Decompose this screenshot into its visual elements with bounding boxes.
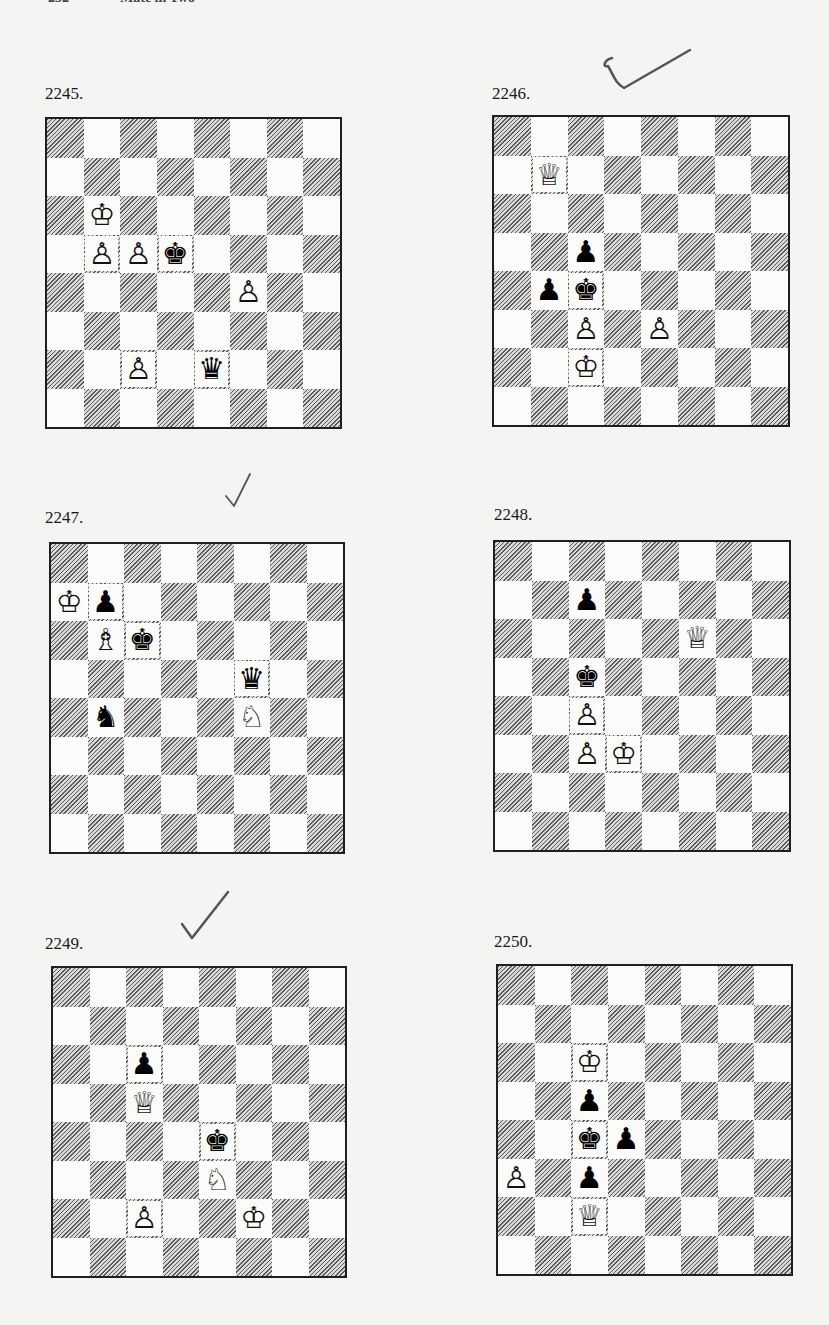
- square-d6[interactable]: [604, 194, 641, 233]
- square-g5[interactable]: [718, 1082, 755, 1121]
- square-a2[interactable]: [47, 350, 84, 389]
- square-a5[interactable]: [51, 660, 88, 699]
- square-e4[interactable]: [642, 696, 679, 735]
- square-e7[interactable]: [645, 1005, 682, 1044]
- square-d3[interactable]: [608, 1159, 645, 1198]
- square-c4[interactable]: [124, 698, 161, 737]
- square-b4[interactable]: [535, 1120, 572, 1159]
- square-g3[interactable]: [718, 1159, 755, 1198]
- black-king-icon[interactable]: ♚: [573, 1122, 606, 1157]
- square-d5[interactable]: [608, 1082, 645, 1121]
- black-king-icon[interactable]: ♚: [159, 236, 192, 271]
- square-g4[interactable]: [718, 1120, 755, 1159]
- square-h7[interactable]: [309, 1007, 346, 1046]
- square-f5[interactable]: [681, 1082, 718, 1121]
- square-a3[interactable]: [495, 735, 532, 774]
- square-c8[interactable]: [126, 968, 163, 1007]
- square-h1[interactable]: [752, 812, 789, 851]
- square-b4[interactable]: [84, 273, 121, 312]
- black-king-icon[interactable]: ♚: [201, 1124, 234, 1159]
- square-g2[interactable]: [267, 350, 304, 389]
- square-g2[interactable]: [715, 348, 752, 387]
- square-b8[interactable]: [532, 542, 569, 581]
- square-h5[interactable]: [751, 233, 788, 272]
- square-e7[interactable]: [642, 581, 679, 620]
- black-queen-icon[interactable]: ♛: [195, 352, 228, 387]
- square-h4[interactable]: [754, 1120, 791, 1159]
- square-a3[interactable]: ♙: [498, 1159, 535, 1198]
- square-a7[interactable]: ♔: [51, 583, 88, 622]
- square-d7[interactable]: [608, 1005, 645, 1044]
- square-a8[interactable]: [494, 117, 531, 156]
- square-b7[interactable]: [84, 158, 121, 197]
- square-e4[interactable]: ♚: [199, 1122, 236, 1161]
- square-h1[interactable]: [303, 389, 340, 428]
- square-d4[interactable]: [604, 271, 641, 310]
- square-f7[interactable]: [678, 156, 715, 195]
- square-g7[interactable]: [267, 158, 304, 197]
- square-f1[interactable]: [678, 387, 715, 426]
- square-f2[interactable]: [679, 773, 716, 812]
- square-f1[interactable]: [681, 1236, 718, 1275]
- square-g8[interactable]: [272, 968, 309, 1007]
- square-g5[interactable]: [272, 1084, 309, 1123]
- square-h4[interactable]: [751, 271, 788, 310]
- square-b3[interactable]: [90, 1161, 127, 1200]
- square-b7[interactable]: ♟: [88, 583, 125, 622]
- white-queen-icon[interactable]: ♕: [128, 1085, 161, 1120]
- square-b2[interactable]: [535, 1197, 572, 1236]
- white-pawn-icon[interactable]: ♙: [85, 236, 118, 271]
- square-h2[interactable]: [754, 1197, 791, 1236]
- square-g1[interactable]: [267, 389, 304, 428]
- square-c2[interactable]: [569, 773, 606, 812]
- square-f6[interactable]: [230, 196, 267, 235]
- square-a8[interactable]: [498, 966, 535, 1005]
- square-a6[interactable]: [494, 194, 531, 233]
- square-g5[interactable]: [267, 235, 304, 274]
- square-c3[interactable]: ♙: [568, 310, 605, 349]
- square-g8[interactable]: [716, 542, 753, 581]
- square-h3[interactable]: [751, 310, 788, 349]
- square-f5[interactable]: [678, 233, 715, 272]
- square-c1[interactable]: [571, 1236, 608, 1275]
- square-a7[interactable]: [47, 158, 84, 197]
- white-queen-icon[interactable]: ♕: [681, 621, 714, 656]
- square-c5[interactable]: [124, 660, 161, 699]
- square-e8[interactable]: [641, 117, 678, 156]
- square-f6[interactable]: [678, 194, 715, 233]
- square-g7[interactable]: [272, 1007, 309, 1046]
- square-d1[interactable]: [605, 812, 642, 851]
- square-d7[interactable]: [605, 581, 642, 620]
- square-e5[interactable]: [197, 660, 234, 699]
- square-b2[interactable]: [88, 775, 125, 814]
- square-h1[interactable]: [309, 1238, 346, 1277]
- square-g2[interactable]: [716, 773, 753, 812]
- square-g4[interactable]: [267, 273, 304, 312]
- square-b6[interactable]: [531, 194, 568, 233]
- square-b5[interactable]: ♙: [84, 235, 121, 274]
- black-pawn-icon[interactable]: ♟: [569, 234, 602, 269]
- square-a8[interactable]: [53, 968, 90, 1007]
- square-e1[interactable]: [642, 812, 679, 851]
- square-c8[interactable]: [569, 542, 606, 581]
- square-c7[interactable]: [571, 1005, 608, 1044]
- square-e8[interactable]: [194, 119, 231, 158]
- square-b3[interactable]: [531, 310, 568, 349]
- square-g8[interactable]: [715, 117, 752, 156]
- square-b8[interactable]: [84, 119, 121, 158]
- square-d4[interactable]: [161, 698, 198, 737]
- square-a5[interactable]: [498, 1082, 535, 1121]
- square-h5[interactable]: [307, 660, 344, 699]
- square-a4[interactable]: [47, 273, 84, 312]
- chess-board[interactable]: ♟♕♚♙♙♔: [493, 540, 791, 852]
- square-g5[interactable]: [270, 660, 307, 699]
- square-h8[interactable]: [303, 119, 340, 158]
- square-d1[interactable]: [604, 387, 641, 426]
- square-g6[interactable]: [716, 619, 753, 658]
- square-e6[interactable]: [194, 196, 231, 235]
- square-g8[interactable]: [718, 966, 755, 1005]
- square-e2[interactable]: [642, 773, 679, 812]
- square-e3[interactable]: ♙: [641, 310, 678, 349]
- square-h3[interactable]: [303, 312, 340, 351]
- square-e4[interactable]: [194, 273, 231, 312]
